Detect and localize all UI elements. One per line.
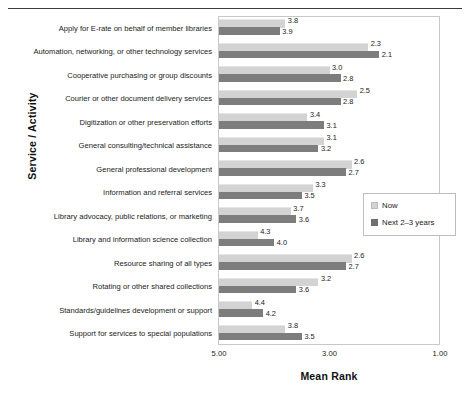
bar-value-next: 3.6 [299, 216, 309, 224]
category-label: Cooperative purchasing or group discount… [12, 70, 212, 79]
bar-next [219, 309, 263, 316]
bar-next [219, 51, 379, 58]
row-bars: 3.43.1 [219, 112, 440, 130]
bar-now [219, 43, 368, 51]
row-bars: 4.44.2 [219, 300, 440, 318]
bar-next [219, 121, 324, 128]
bar-value-next: 3.5 [304, 333, 314, 341]
x-tick-label: 1.00 [433, 349, 448, 358]
x-tick-label: 3.00 [322, 349, 337, 358]
bar-value-now: 2.6 [354, 158, 364, 166]
bar-value-now: 3.7 [293, 205, 303, 213]
row-bars: 2.32.1 [219, 42, 440, 60]
category-label: General consulting/technical assistance [12, 141, 212, 150]
bar-now [219, 90, 357, 98]
x-tick-label: 5.00 [212, 349, 227, 358]
category-label: Digitization or other preservation effor… [12, 117, 212, 126]
bar-next [219, 145, 318, 152]
bar-value-now: 3.8 [288, 17, 298, 25]
bar-next [219, 333, 302, 340]
bar-value-next: 2.7 [349, 263, 359, 271]
chart-figure: Service / Activity Apply for E-rate on b… [0, 0, 470, 395]
legend-swatch-now-icon [371, 202, 378, 209]
bar-next [219, 98, 341, 105]
bar-value-next: 2.8 [343, 98, 353, 106]
bar-now [219, 184, 313, 192]
bar-value-next: 2.7 [349, 169, 359, 177]
bar-now [219, 66, 330, 74]
x-axis-ticks: 5.003.001.00 [0, 349, 470, 363]
bar-value-next: 4.0 [277, 239, 287, 247]
bar-now [219, 19, 285, 27]
chart-row: Digitization or other preservation effor… [0, 110, 470, 134]
header-divider [8, 8, 462, 9]
row-bars: 2.62.7 [219, 159, 440, 177]
chart-row: Courier or other document delivery servi… [0, 87, 470, 111]
bar-value-now: 2.3 [371, 40, 381, 48]
bar-now [219, 231, 258, 239]
row-bars: 3.13.2 [219, 136, 440, 154]
chart-row: Standards/guidelines development or supp… [0, 298, 470, 322]
bar-value-now: 3.2 [321, 275, 331, 283]
bar-value-now: 3.0 [332, 64, 342, 72]
bar-now [219, 325, 285, 333]
x-axis-title: Mean Rank [218, 370, 440, 382]
chart-row: Support for services to special populati… [0, 322, 470, 346]
bar-next [219, 192, 302, 199]
bar-value-next: 3.5 [304, 192, 314, 200]
category-label: Apply for E-rate on behalf of member lib… [12, 23, 212, 32]
chart-row: Apply for E-rate on behalf of member lib… [0, 16, 470, 40]
bar-next [219, 168, 346, 175]
bar-value-next: 3.2 [321, 145, 331, 153]
chart-row: General professional development2.62.7 [0, 157, 470, 181]
bar-now [219, 254, 352, 262]
bar-value-next: 2.1 [382, 51, 392, 59]
bar-now [219, 301, 252, 309]
row-bars: 2.52.8 [219, 89, 440, 107]
bar-value-now: 4.3 [260, 228, 270, 236]
chart-row: Rotating or other shared collections3.23… [0, 275, 470, 299]
category-label: Automation, networking, or other technol… [12, 47, 212, 56]
bar-value-now: 3.8 [288, 322, 298, 330]
category-label: General professional development [12, 164, 212, 173]
category-label: Courier or other document delivery servi… [12, 94, 212, 103]
category-label: Library and information science collecti… [12, 235, 212, 244]
row-bars: 3.02.8 [219, 65, 440, 83]
bar-next [219, 262, 346, 269]
legend-swatch-next-icon [371, 219, 378, 226]
category-label: Rotating or other shared collections [12, 282, 212, 291]
bar-next [219, 74, 341, 81]
bar-next [219, 215, 296, 222]
category-label: Resource sharing of all types [12, 258, 212, 267]
bar-value-next: 3.1 [326, 122, 336, 130]
legend-label-now: Now [382, 201, 398, 210]
row-bars: 3.23.6 [219, 277, 440, 295]
row-bars: 3.83.5 [219, 324, 440, 342]
category-label: Standards/guidelines development or supp… [12, 305, 212, 314]
bar-value-now: 2.5 [360, 87, 370, 95]
legend-label-next: Next 2–3 years [382, 218, 434, 227]
legend-item-next: Next 2–3 years [371, 218, 434, 227]
bar-value-now: 2.6 [354, 252, 364, 260]
chart-row: Resource sharing of all types2.62.7 [0, 251, 470, 275]
category-label: Library advocacy, public relations, or m… [12, 211, 212, 220]
chart-row: General consulting/technical assistance3… [0, 134, 470, 158]
bar-value-now: 3.1 [326, 134, 336, 142]
category-label: Support for services to special populati… [12, 329, 212, 338]
bar-value-next: 4.2 [266, 310, 276, 318]
row-bars: 2.62.7 [219, 253, 440, 271]
category-label: Information and referral services [12, 188, 212, 197]
bar-rows: Apply for E-rate on behalf of member lib… [0, 16, 470, 345]
row-bars: 3.83.9 [219, 18, 440, 36]
bar-value-now: 3.3 [315, 181, 325, 189]
bar-now [219, 137, 324, 145]
bar-value-next: 3.6 [299, 286, 309, 294]
bar-value-next: 3.9 [282, 28, 292, 36]
bar-now [219, 160, 352, 168]
bar-next [219, 27, 280, 34]
bar-next [219, 286, 296, 293]
chart-row: Cooperative purchasing or group discount… [0, 63, 470, 87]
chart-row: Automation, networking, or other technol… [0, 40, 470, 64]
chart-legend: Now Next 2–3 years [363, 193, 456, 236]
bar-value-now: 4.4 [255, 299, 265, 307]
